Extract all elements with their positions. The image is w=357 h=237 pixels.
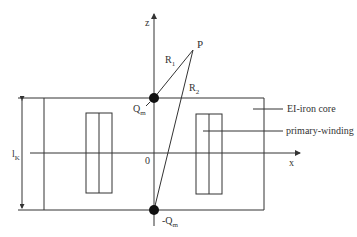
charge-qm-bottom	[149, 205, 159, 215]
dimension-label: lK	[12, 148, 20, 162]
r2-label: R2	[189, 82, 200, 96]
charge-qm-bottom-label: -Qm	[162, 215, 179, 229]
core-height-dimension: lK	[12, 100, 22, 208]
z-axis-label: z	[145, 17, 150, 28]
charge-qm-top-label: Qm	[133, 103, 146, 117]
origin-label: 0	[145, 155, 150, 166]
r1-label: R1	[165, 54, 176, 68]
charge-qm-top-leader	[146, 102, 150, 106]
winding-callout-label: primary-winding	[286, 125, 354, 136]
x-axis-label: x	[289, 157, 294, 168]
magnetic-dipole-diagram: lK x z 0 P R1 R2 Qm -Qm EI-iron core pri…	[0, 0, 357, 237]
charge-qm-top	[149, 93, 159, 103]
point-p-label: P	[197, 38, 203, 50]
core-callout-label: EI-iron core	[287, 103, 336, 114]
right-winding	[196, 114, 222, 194]
